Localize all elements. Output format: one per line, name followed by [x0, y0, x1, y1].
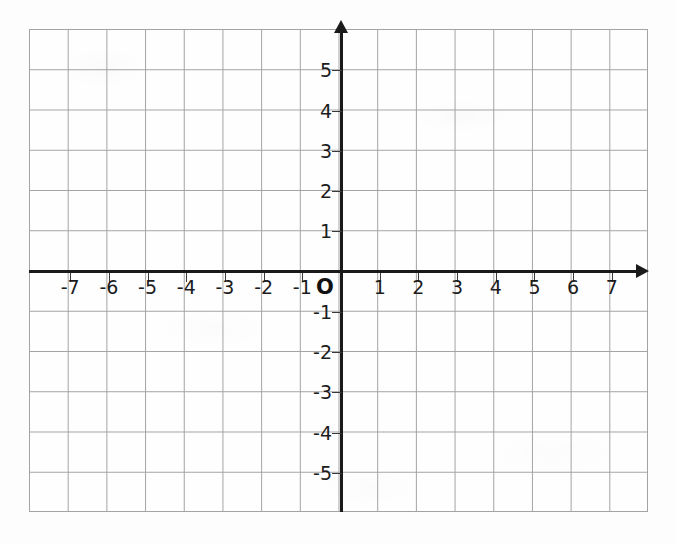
y-axis-arrow-icon — [334, 20, 348, 33]
y-axis-tick — [332, 191, 342, 192]
y-axis-tick-label: -4 — [313, 423, 332, 442]
x-axis-tick-label: 3 — [451, 278, 463, 297]
y-axis-tick-label: -2 — [313, 343, 332, 362]
y-axis-tick — [332, 473, 342, 474]
y-axis-tick — [332, 231, 342, 232]
graph-paper-page: -7-6-5-4-3-2-11234567 54321-1-2-3-4-5 O — [0, 0, 676, 544]
x-axis-tick-label: 7 — [606, 278, 618, 297]
y-axis-tick-label: 1 — [320, 222, 332, 241]
x-axis-tick-label: 6 — [567, 278, 579, 297]
y-axis-tick — [332, 151, 342, 152]
y-axis-tick-label: 2 — [320, 182, 332, 201]
y-axis-tick — [332, 433, 342, 434]
x-axis-tick-label: -3 — [215, 278, 234, 297]
x-axis-tick-label: 2 — [412, 278, 424, 297]
x-axis-tick-label: -6 — [99, 278, 118, 297]
y-axis-tick-label: -3 — [313, 383, 332, 402]
x-axis-tick-label: -5 — [138, 278, 157, 297]
y-axis-tick — [332, 392, 342, 393]
x-axis-tick-label: 5 — [528, 278, 540, 297]
x-axis-arrow-icon — [636, 264, 649, 278]
y-axis-tick-label: 5 — [320, 61, 332, 80]
x-axis-tick-label: 4 — [490, 278, 502, 297]
x-axis-tick-label: -4 — [177, 278, 196, 297]
x-axis-line — [29, 270, 641, 273]
y-axis-tick — [332, 70, 342, 71]
x-axis-tick-label: -1 — [293, 278, 312, 297]
x-axis-tick-label: 1 — [374, 278, 386, 297]
y-axis-tick-label: 4 — [320, 101, 332, 120]
origin-label: O — [316, 277, 334, 298]
y-axis-tick — [332, 111, 342, 112]
y-axis-tick-label: 3 — [320, 141, 332, 160]
y-axis-tick — [332, 312, 342, 313]
x-axis-tick-label: -2 — [254, 278, 273, 297]
y-axis-tick-label: -5 — [313, 463, 332, 482]
y-axis-line — [340, 29, 343, 512]
y-axis-tick-label: -1 — [313, 302, 332, 321]
y-axis-tick — [332, 352, 342, 353]
x-axis-tick-label: -7 — [61, 278, 80, 297]
